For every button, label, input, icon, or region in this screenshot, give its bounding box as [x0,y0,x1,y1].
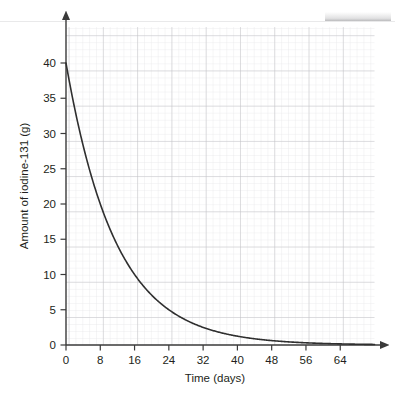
x-tick-label: 48 [265,354,278,366]
x-tick-label: 56 [300,354,313,366]
x-tick-label: 16 [128,354,141,366]
x-tick-label: 40 [231,354,244,366]
y-tick-label: 0 [50,339,56,351]
y-axis-ticks [61,63,67,345]
y-axis-title: Amount of iodine-131 (g) [18,123,30,250]
y-tick-labels: 0 5 10 15 20 25 30 35 40 [43,57,56,351]
x-axis-title: Time (days) [185,372,245,384]
x-tick-label: 64 [334,354,347,366]
y-tick-label: 5 [50,304,56,316]
y-tick-label: 10 [43,269,56,281]
decay-chart: 0 5 10 15 20 25 30 35 40 0 8 16 2 [0,0,395,399]
y-tick-label: 25 [43,163,56,175]
x-tick-label: 0 [63,354,69,366]
y-tick-label: 30 [43,128,56,140]
x-tick-labels: 0 8 16 24 32 40 48 56 64 [63,354,347,366]
grid-area [66,27,375,345]
x-tick-label: 24 [162,354,175,366]
y-tick-label: 40 [43,57,56,69]
y-tick-label: 35 [43,92,56,104]
figure-container: 0 5 10 15 20 25 30 35 40 0 8 16 2 [0,0,395,399]
x-axis-ticks [66,345,340,351]
y-tick-label: 20 [43,198,56,210]
x-tick-label: 32 [197,354,210,366]
x-tick-label: 8 [97,354,103,366]
y-tick-label: 15 [43,233,56,245]
